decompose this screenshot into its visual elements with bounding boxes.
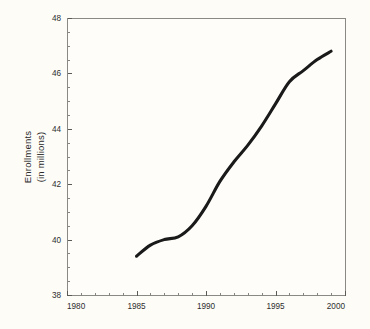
x-tick-label: 1995	[266, 302, 285, 311]
y-tick-label: 40	[52, 236, 62, 245]
y-tick-label: 46	[52, 69, 62, 78]
y-axis-label-line2: (in millions)	[35, 132, 46, 183]
y-tick-label: 38	[52, 291, 62, 300]
y-tick-label: 42	[52, 180, 62, 189]
enrollments-line-chart: 19801985199019952000 384042444648 Enroll…	[0, 0, 370, 329]
y-tick-label: 48	[52, 14, 62, 23]
x-tick-label: 2000	[327, 302, 346, 311]
x-tick-label: 1990	[197, 302, 216, 311]
x-tick-label: 1980	[67, 302, 86, 311]
y-tick-label: 44	[52, 125, 62, 134]
x-tick-label: 1985	[127, 302, 146, 311]
plot-area-background	[67, 18, 345, 295]
y-axis-label-line1: Enrollments	[22, 131, 33, 183]
